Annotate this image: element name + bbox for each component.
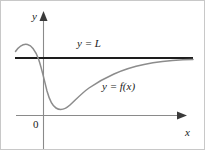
graph-canvas	[1, 1, 205, 150]
asymptote-label: y = L	[77, 38, 101, 49]
function-curve	[16, 44, 194, 109]
y-axis-label: y	[32, 11, 37, 22]
x-axis-label: x	[185, 127, 190, 138]
limit-graph-figure: y x 0 y = L y = f(x)	[0, 0, 205, 150]
x-axis-arrowhead	[177, 112, 187, 120]
y-axis-arrowhead	[40, 11, 48, 21]
function-label: y = f(x)	[102, 81, 135, 92]
origin-label: 0	[33, 119, 39, 130]
